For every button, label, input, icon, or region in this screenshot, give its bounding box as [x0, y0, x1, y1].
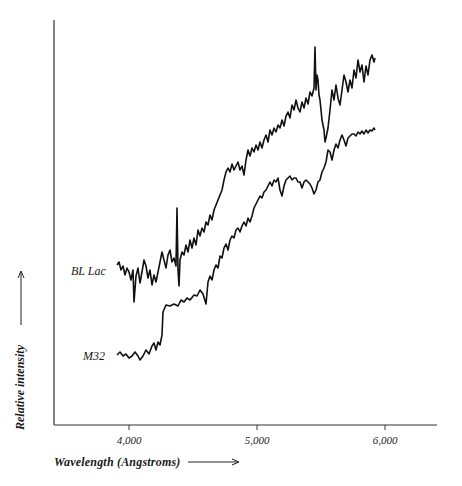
x-tick-label-4000: 4,000: [117, 434, 142, 446]
series-label-m32: M32: [83, 349, 105, 364]
series-label-bl-lac: BL Lac: [71, 264, 106, 279]
x-tick-label-6000: 6,000: [373, 434, 398, 446]
x-tick-label-5000: 5,000: [245, 434, 270, 446]
bl-lac-spectrum-line: [117, 47, 375, 302]
spectrum-chart: [0, 0, 462, 486]
x-axis-title: Wavelength (Angstroms): [54, 455, 181, 470]
y-axis-title: Relative intensity: [13, 345, 28, 430]
